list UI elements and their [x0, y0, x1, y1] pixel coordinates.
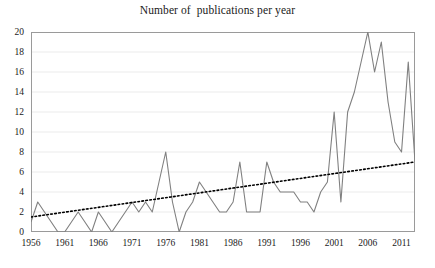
y-tick-label: 18: [0, 47, 24, 57]
publications-per-year-chart: Number of publications per year 02468101…: [0, 0, 435, 268]
chart-svg: [31, 32, 415, 232]
y-tick-label: 6: [0, 167, 24, 177]
plot-area: [31, 32, 415, 232]
trendline-linear: [31, 162, 415, 217]
chart-title: Number of publications per year: [0, 4, 435, 16]
y-tick-label: 10: [0, 127, 24, 137]
x-tick-label: 2011: [382, 238, 422, 248]
y-tick-label: 0: [0, 227, 24, 237]
y-tick-label: 2: [0, 207, 24, 217]
y-tick-label: 12: [0, 107, 24, 117]
y-tick-label: 14: [0, 87, 24, 97]
y-tick-label: 4: [0, 187, 24, 197]
y-tick-label: 20: [0, 27, 24, 37]
y-tick-label: 16: [0, 67, 24, 77]
y-tick-label: 8: [0, 147, 24, 157]
